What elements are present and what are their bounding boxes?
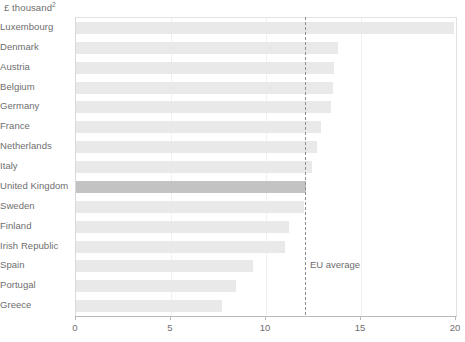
bar-france	[76, 121, 321, 133]
eu-average-line	[305, 17, 306, 315]
bar-portugal	[76, 280, 236, 292]
bar-row	[76, 18, 456, 38]
units-footnote-marker: 2	[52, 1, 56, 8]
x-tick-label-5: 5	[155, 322, 185, 333]
bar-belgium	[76, 82, 333, 94]
bar-germany	[76, 101, 331, 113]
bar-row	[76, 276, 456, 296]
bar-netherlands	[76, 141, 317, 153]
bar-irish-republic	[76, 241, 285, 253]
bar-row	[76, 256, 456, 276]
units-label: £ thousand2	[4, 2, 56, 13]
bar-greece	[76, 300, 222, 312]
category-label-sweden: Sweden	[0, 200, 70, 211]
bar-row	[76, 177, 456, 197]
category-label-finland: Finland	[0, 220, 70, 231]
x-tick-5	[170, 316, 171, 320]
bar-row	[76, 197, 456, 217]
bar-row	[76, 78, 456, 98]
x-tick-label-20: 20	[440, 322, 465, 333]
x-tick-label-10: 10	[250, 322, 280, 333]
units-label-text: £ thousand	[4, 2, 52, 13]
category-label-irish-republic: Irish Republic	[0, 240, 70, 251]
category-label-greece: Greece	[0, 299, 70, 310]
x-tick-15	[360, 316, 361, 320]
x-tick-0	[75, 316, 76, 320]
bar-united-kingdom	[76, 181, 306, 193]
bar-row	[76, 217, 456, 237]
eu-average-label: EU average	[310, 259, 360, 270]
bar-row	[76, 237, 456, 257]
category-label-netherlands: Netherlands	[0, 140, 70, 151]
category-label-luxembourg: Luxembourg	[0, 21, 70, 32]
bar-row	[76, 117, 456, 137]
category-label-austria: Austria	[0, 61, 70, 72]
category-label-portugal: Portugal	[0, 279, 70, 290]
category-label-germany: Germany	[0, 100, 70, 111]
bar-denmark	[76, 42, 338, 54]
category-label-belgium: Belgium	[0, 81, 70, 92]
bar-austria	[76, 62, 334, 74]
category-label-spain: Spain	[0, 259, 70, 270]
bar-row	[76, 296, 456, 316]
bar-sweden	[76, 201, 304, 213]
x-tick-10	[265, 316, 266, 320]
category-label-italy: Italy	[0, 160, 70, 171]
bar-italy	[76, 161, 312, 173]
x-tick-20	[455, 316, 456, 320]
x-tick-label-0: 0	[60, 322, 90, 333]
bar-row	[76, 137, 456, 157]
category-label-united-kingdom: United Kingdom	[0, 180, 70, 191]
category-label-denmark: Denmark	[0, 41, 70, 52]
bar-row	[76, 157, 456, 177]
bar-spain	[76, 260, 253, 272]
bar-luxembourg	[76, 22, 454, 34]
bar-row	[76, 38, 456, 58]
bar-row	[76, 58, 456, 78]
plot-area	[75, 17, 457, 317]
category-label-france: France	[0, 120, 70, 131]
x-tick-label-15: 15	[345, 322, 375, 333]
bar-finland	[76, 221, 289, 233]
bar-row	[76, 97, 456, 117]
